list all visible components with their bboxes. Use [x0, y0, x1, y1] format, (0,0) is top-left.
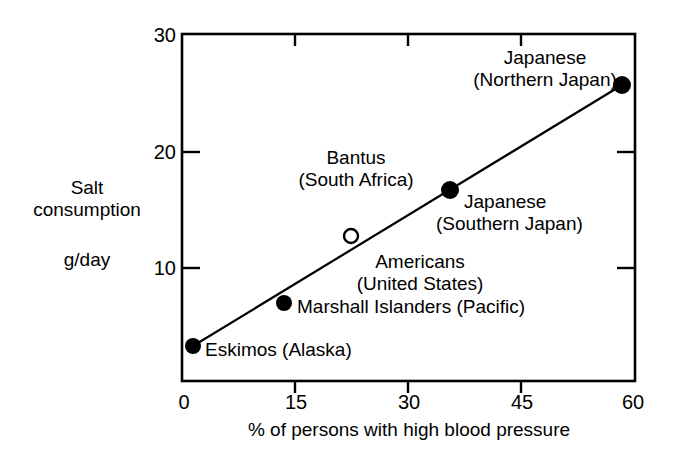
y-axis-tick-label-10: 10	[154, 258, 176, 278]
data-point-marshall-islanders	[276, 295, 292, 311]
y-axis-tick-label-20: 20	[154, 142, 176, 162]
annotation-bantus-line2: (South Africa)	[298, 170, 413, 189]
x-axis-title: % of persons with high blood pressure	[248, 420, 570, 439]
x-axis-tick-label-15: 15	[285, 392, 307, 412]
y-axis-title-line2: consumption	[33, 200, 141, 219]
annotation-americans-line2: (United States)	[357, 274, 484, 293]
annotation-japanese-southern-line1: Japanese	[464, 192, 546, 211]
scatter-plot-figure: 30 20 10 0 15 30 45 60 Salt consumption …	[0, 0, 674, 457]
annotation-marshall-islanders: Marshall Islanders (Pacific)	[297, 297, 525, 316]
x-axis-tick-label-0: 0	[178, 392, 189, 412]
data-point-japanese-southern	[441, 181, 459, 199]
data-point-eskimos	[185, 338, 201, 354]
data-point-americans	[344, 229, 358, 243]
y-axis-title-line1: Salt	[71, 178, 104, 197]
y-axis-title-line3: g/day	[64, 250, 110, 269]
x-axis-tick-label-60: 60	[622, 392, 644, 412]
x-axis-tick-label-30: 30	[398, 392, 420, 412]
annotation-japanese-northern-line1: Japanese	[504, 48, 586, 67]
annotation-bantus-line1: Bantus	[326, 148, 385, 167]
annotation-americans-line1: Americans	[375, 252, 465, 271]
annotation-eskimos: Eskimos (Alaska)	[205, 340, 352, 359]
annotation-japanese-northern-line2: (Northern Japan)	[473, 70, 617, 89]
annotation-japanese-southern-line2: (Southern Japan)	[436, 214, 583, 233]
y-axis-tick-label-30: 30	[154, 25, 176, 45]
x-axis-tick-label-45: 45	[511, 392, 533, 412]
